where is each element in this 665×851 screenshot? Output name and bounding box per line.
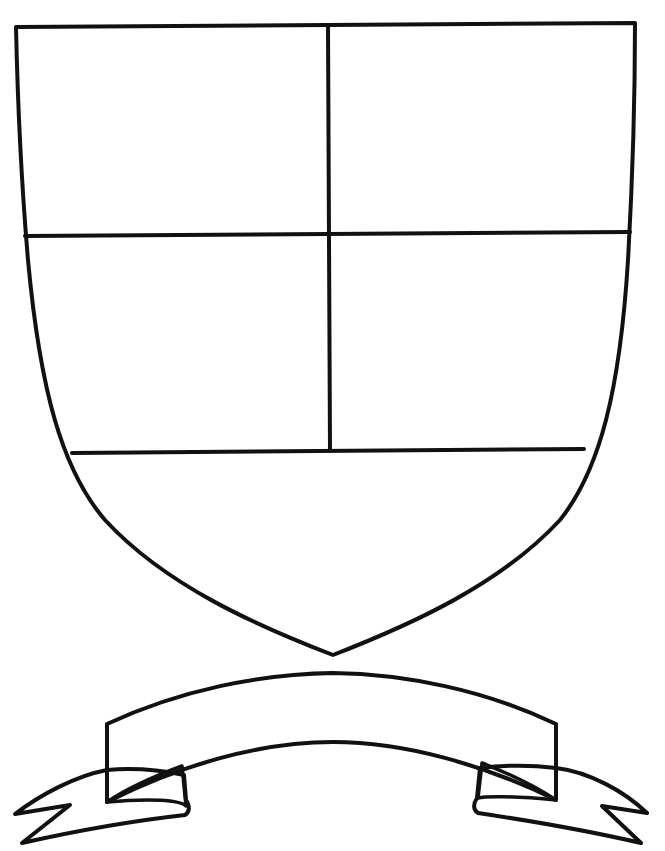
banner-main-band[interactable] — [107, 673, 556, 802]
shield-lower-horizontal-divider — [72, 449, 584, 453]
shield-outline — [16, 23, 635, 655]
coat-of-arms-canvas — [0, 0, 665, 851]
shield — [16, 23, 635, 655]
coat-of-arms-illustration — [0, 0, 665, 851]
shield-vertical-divider — [328, 25, 330, 450]
banner-ribbon — [15, 673, 647, 843]
banner-left-tail — [15, 769, 189, 843]
shield-upper-horizontal-divider — [25, 232, 630, 236]
